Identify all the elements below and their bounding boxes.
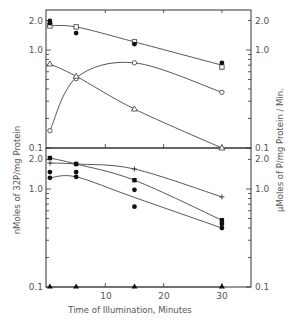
bottom-left-tick-1: 1.0	[29, 184, 44, 194]
filled-square-marker	[132, 178, 136, 182]
bottom-left-tick-01: 0.1	[29, 282, 43, 292]
filled-circle-marker	[48, 170, 53, 175]
top-right-tick-1: 1.0	[255, 45, 270, 55]
filled-triangle-marker	[73, 284, 79, 289]
x-tick-20: 20	[158, 291, 170, 301]
open-circle-marker	[132, 61, 136, 65]
top-right-tick-01: 0.1	[255, 143, 269, 153]
filled-circle-marker	[132, 42, 137, 47]
open-square-marker	[220, 65, 224, 69]
log-scale-time-course-chart: 2.0 1.0 0.1 2.0 1.0 0.1 2.0 1.0 0.1 2.0 …	[0, 0, 291, 320]
filled-circle-marker	[74, 31, 79, 36]
filled-circle-marker	[220, 60, 225, 65]
open-triangle-marker	[131, 106, 137, 111]
filled-triangle-marker	[47, 284, 53, 289]
top-left-tick-2: 2.0	[29, 16, 44, 26]
filled-square-marker	[74, 162, 78, 166]
open-square-marker	[74, 25, 78, 29]
filled-triangle-marker	[219, 284, 225, 289]
filled-circle-marker	[132, 204, 137, 209]
filled-square-marker	[48, 156, 52, 160]
x-tick-30: 30	[216, 291, 228, 301]
bottom-right-tick-2: 2.0	[255, 154, 270, 164]
y-right-axis-title: µMoles of P/mg Protein / Min.	[275, 88, 285, 212]
filled-circle-marker	[48, 175, 53, 180]
bottom-curve-filled-circle	[50, 176, 222, 228]
top-left-tick-1: 1.0	[29, 45, 44, 55]
open-circle-marker	[220, 90, 224, 94]
x-axis-title: Time of Illumination, Minutes	[67, 305, 192, 315]
top-right-tick-2: 2.0	[255, 16, 270, 26]
bottom-left-tick-2: 2.0	[29, 154, 44, 164]
filled-circle-marker	[74, 174, 79, 179]
bottom-right-tick-1: 1.0	[255, 184, 270, 194]
filled-circle-marker	[48, 21, 53, 26]
x-tick-10: 10	[100, 291, 112, 301]
bottom-panel-frame	[46, 148, 251, 287]
open-triangle-marker	[47, 61, 53, 66]
bottom-right-tick-01: 0.1	[255, 282, 269, 292]
filled-circle-marker	[74, 170, 79, 175]
filled-triangle-marker	[131, 284, 137, 289]
open-circle-marker	[48, 129, 52, 133]
top-left-tick-01: 0.1	[29, 143, 43, 153]
filled-circle-marker	[132, 187, 137, 192]
filled-circle-marker	[220, 226, 225, 231]
top-curve-open-circle	[50, 62, 222, 130]
y-left-axis-title: nMoles of 32P/mg Protein	[12, 126, 22, 235]
